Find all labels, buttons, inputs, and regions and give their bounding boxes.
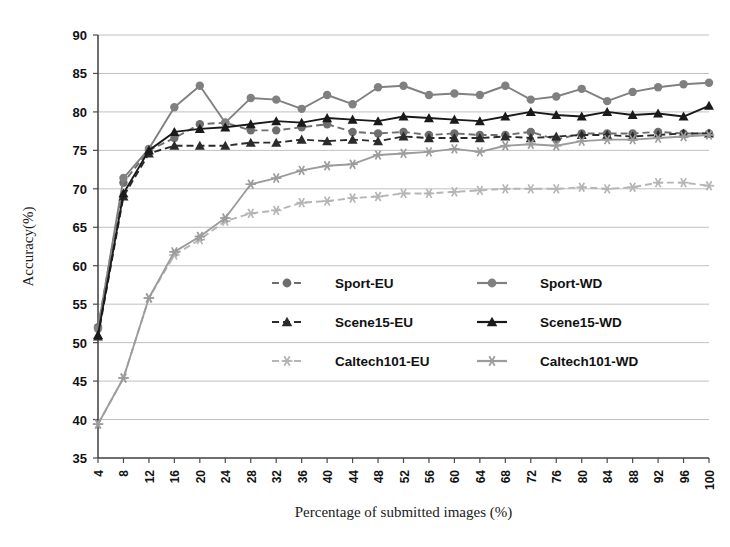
x-tick-label: 40 [321, 470, 335, 484]
data-point-marker [653, 178, 663, 187]
y-tick-label: 45 [73, 374, 87, 389]
series-scene15-eu [93, 128, 714, 340]
data-point-marker [424, 147, 434, 156]
x-tick-label: 100 [703, 470, 717, 490]
data-point-marker [271, 206, 281, 215]
legend-label: Caltech101-WD [540, 354, 639, 369]
data-point-marker [170, 103, 178, 111]
data-point-marker [627, 183, 637, 192]
legend-item-sport-wd[interactable]: Sport-WD [477, 276, 602, 291]
data-point-marker [373, 150, 383, 159]
data-point-marker [119, 174, 127, 182]
data-point-marker [488, 279, 497, 288]
legend: Sport-EUSport-WDScene15-EUScene15-WDCalt… [272, 276, 639, 369]
x-axis-title: Percentage of submitted images (%) [295, 504, 512, 521]
data-point-marker [272, 126, 280, 134]
data-point-marker [398, 189, 408, 198]
data-point-marker [247, 94, 255, 102]
series-line [98, 133, 709, 336]
legend-item-caltech101-eu[interactable]: Caltech101-EU [272, 354, 430, 369]
data-point-marker [196, 82, 204, 90]
data-point-marker [654, 83, 662, 91]
data-point-marker [246, 180, 256, 189]
series-caltech101-eu [93, 178, 714, 429]
y-tick-labels: 354045505560657075808590 [73, 28, 87, 466]
x-tick-label: 80 [576, 470, 590, 484]
data-point-marker [374, 83, 382, 91]
y-tick-label: 35 [73, 451, 87, 466]
data-point-marker [347, 194, 357, 203]
legend-label: Sport-WD [540, 276, 602, 291]
data-point-marker [296, 198, 306, 207]
y-tick-label: 70 [73, 182, 87, 197]
x-tick-label: 84 [601, 470, 615, 484]
y-tick-label: 65 [73, 220, 87, 235]
data-point-marker [282, 356, 293, 365]
series-line [98, 183, 709, 424]
data-point-marker [475, 147, 485, 156]
x-tick-label: 36 [296, 470, 310, 484]
data-point-marker [322, 197, 332, 206]
line-chart: 3540455055606570758085904812162024283236… [0, 0, 730, 547]
legend-item-sport-eu[interactable]: Sport-EU [272, 276, 394, 291]
x-tick-label: 16 [168, 470, 182, 484]
data-point-marker [283, 279, 292, 288]
data-point-marker [628, 88, 636, 96]
data-point-marker [425, 91, 433, 99]
y-axis-title: Accuracy(%) [20, 207, 37, 287]
y-tick-label: 60 [73, 259, 87, 274]
x-tick-label: 56 [423, 470, 437, 484]
data-point-marker [449, 144, 459, 153]
x-tick-label: 24 [219, 470, 233, 484]
x-tick-label: 12 [143, 470, 157, 484]
data-point-marker [526, 184, 536, 193]
data-point-marker [500, 184, 510, 193]
chart-canvas: 3540455055606570758085904812162024283236… [0, 0, 730, 547]
legend-item-scene15-wd[interactable]: Scene15-WD [477, 315, 622, 330]
data-point-marker [424, 189, 434, 198]
y-tick-label: 40 [73, 413, 87, 428]
x-tick-label: 72 [525, 470, 539, 484]
x-tick-label: 96 [678, 470, 692, 484]
data-point-marker [246, 209, 256, 218]
legend-item-scene15-eu[interactable]: Scene15-EU [272, 315, 413, 330]
y-tick-label: 90 [73, 28, 87, 43]
legend-label: Scene15-EU [335, 315, 413, 330]
x-tick-label: 4 [92, 470, 106, 477]
data-point-marker [322, 161, 332, 170]
x-tick-label: 20 [194, 470, 208, 484]
y-tick-label: 85 [73, 66, 87, 81]
x-tick-label: 8 [117, 470, 131, 477]
data-point-marker [348, 100, 356, 108]
y-tick-label: 50 [73, 336, 87, 351]
x-tick-label: 44 [347, 470, 361, 484]
data-point-marker [552, 92, 560, 100]
data-point-marker [603, 97, 611, 105]
data-point-marker [487, 356, 498, 365]
data-point-marker [602, 184, 612, 193]
x-tick-label: 76 [550, 470, 564, 484]
legend-item-caltech101-wd[interactable]: Caltech101-WD [477, 354, 639, 369]
x-tick-label: 52 [398, 470, 412, 484]
x-tick-labels: 4812162024283236404448525660646872768084… [92, 470, 717, 490]
data-point-marker [501, 82, 509, 90]
x-tick-label: 88 [627, 470, 641, 484]
legend-label: Sport-EU [335, 276, 394, 291]
data-point-marker [297, 105, 305, 113]
legend-label: Caltech101-EU [335, 354, 430, 369]
x-tick-label: 60 [448, 470, 462, 484]
data-point-marker [704, 101, 714, 110]
data-point-marker [678, 178, 688, 187]
data-point-marker [373, 192, 383, 201]
y-tick-label: 75 [73, 143, 87, 158]
data-point-marker [705, 78, 713, 86]
y-tick-label: 55 [73, 297, 87, 312]
data-point-marker [476, 91, 484, 99]
data-point-marker [272, 95, 280, 103]
data-point-marker [271, 174, 281, 183]
x-tick-label: 64 [474, 470, 488, 484]
data-point-marker [399, 82, 407, 90]
x-tick-label: 68 [499, 470, 513, 484]
data-point-marker [93, 330, 103, 339]
data-point-marker [475, 186, 485, 195]
